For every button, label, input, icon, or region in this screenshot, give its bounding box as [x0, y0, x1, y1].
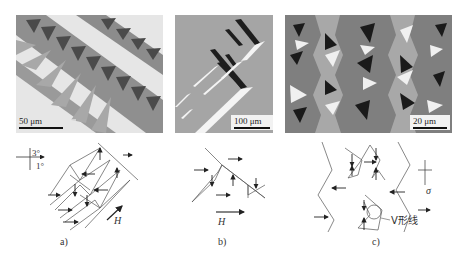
- domain-walls-a: [50, 143, 138, 230]
- caption-b: b): [218, 236, 226, 247]
- caption-c: c): [372, 236, 380, 247]
- scale-label-b: 100 μm: [234, 116, 270, 126]
- schematic-b: H: [160, 140, 300, 250]
- axis-1deg-label: 1°: [36, 161, 45, 171]
- scale-bar-b: 100 μm: [231, 115, 273, 130]
- v-line-label: V形线: [391, 214, 418, 226]
- stress-axis-icon: [418, 160, 432, 185]
- scale-bar-c: 20 μm: [410, 115, 450, 130]
- stress-sigma-label: σ: [426, 185, 432, 196]
- micrograph-b: 100 μm: [175, 15, 273, 133]
- field-h-label-a: H: [113, 215, 122, 226]
- scale-line-b: [234, 127, 270, 129]
- scale-label-c: 20 μm: [413, 116, 447, 126]
- caption-a: a): [60, 236, 68, 247]
- micrograph-c: 20 μm: [285, 15, 452, 133]
- axis-3deg-label: 3°: [32, 148, 41, 158]
- micrograph-a: 50 μm: [16, 15, 163, 133]
- domain-walls-b: [192, 148, 265, 202]
- scale-label-a: 50 μm: [19, 116, 63, 126]
- scale-bar-a: 50 μm: [19, 116, 63, 129]
- schematic-a: 3° 1° H: [0, 140, 160, 250]
- scale-line-a: [19, 127, 63, 129]
- magnetization-arrows-a: [48, 148, 132, 222]
- field-h-label-b: H: [217, 216, 226, 227]
- scale-line-c: [413, 127, 447, 129]
- schematic-c: σ V形线: [300, 140, 464, 250]
